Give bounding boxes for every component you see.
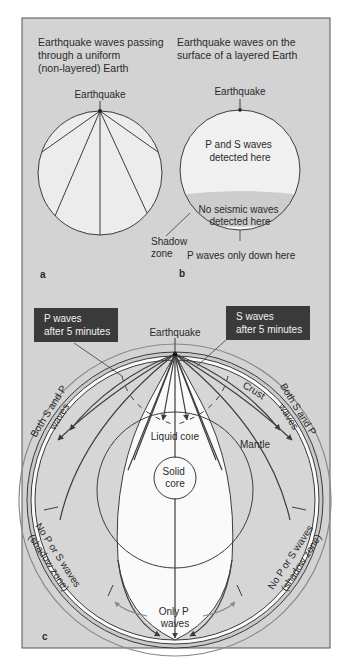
earthquake-wave-diagram: Earthquake waves passing through a unifo… xyxy=(0,0,341,665)
panel-b-earthquake-label: Earthquake xyxy=(214,86,266,97)
panel-a-letter: a xyxy=(40,269,46,280)
panel-c-earthquake-label: Earthquake xyxy=(149,327,201,338)
panel-b-letter: b xyxy=(179,268,185,279)
only-p-label: Only P waves xyxy=(159,606,192,629)
no-waves-label: No seismic waves detected here xyxy=(199,204,282,227)
liquid-core-label: Liquid coıe xyxy=(151,431,200,442)
panel-a-earthquake-label: Earthquake xyxy=(74,89,126,100)
solid-core-label: Solid core xyxy=(162,466,187,489)
earthquake-focus-a xyxy=(98,109,102,113)
mantle-label: Mantle xyxy=(240,439,270,450)
panel-c-letter: c xyxy=(42,631,48,642)
panel-b-title: Earthquake waves on the surface of a lay… xyxy=(177,36,298,61)
p-only-label: P waves only down here xyxy=(187,250,296,261)
